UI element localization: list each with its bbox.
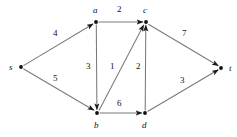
node-dot-d — [143, 111, 147, 115]
node-dot-c — [144, 20, 148, 24]
edge-weight-a-c: 2 — [117, 5, 122, 14]
node-label-s: s — [9, 63, 13, 72]
edge-a-b — [96, 25, 97, 110]
weighted-directed-graph: s a c b d t 4 5 2 3 1 6 2 7 3 — [0, 0, 237, 137]
edge-weight-b-c: 1 — [110, 62, 115, 71]
node-label-t: t — [229, 64, 232, 73]
node-label-b: b — [94, 121, 99, 130]
node-dot-t — [219, 66, 223, 70]
edge-weight-b-d: 6 — [117, 99, 122, 108]
edge-s-b — [23, 69, 94, 110]
node-dot-a — [94, 20, 98, 24]
node-dot-b — [95, 111, 99, 115]
node-label-c: c — [143, 6, 147, 15]
node-dot-s — [19, 65, 23, 69]
node-label-d: d — [142, 121, 147, 130]
edge-weight-s-a: 4 — [53, 29, 58, 38]
node-label-a: a — [93, 6, 98, 15]
edge-weight-a-b: 3 — [86, 62, 91, 71]
edge-s-a — [24, 24, 94, 66]
graph-canvas — [0, 0, 237, 137]
edge-weight-c-t: 7 — [182, 29, 187, 38]
edge-weight-d-c: 2 — [136, 62, 141, 71]
edge-weight-s-b: 5 — [53, 74, 58, 83]
edge-weight-d-t: 3 — [180, 76, 185, 85]
edge-d-c — [145, 25, 146, 110]
